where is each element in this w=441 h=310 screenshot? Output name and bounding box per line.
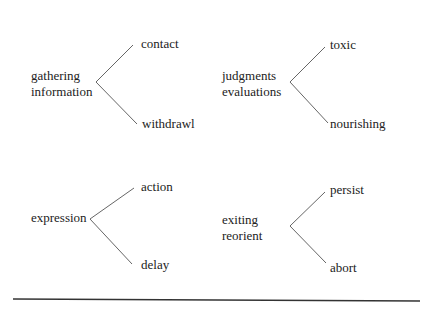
source-label: exiting reorient bbox=[222, 212, 262, 244]
branch-label-top: contact bbox=[141, 36, 179, 52]
bottom-rule bbox=[13, 299, 420, 301]
branch-line-gathering-contact bbox=[96, 45, 133, 82]
source-label: gathering information bbox=[31, 68, 92, 100]
branch-line-expression-action bbox=[90, 188, 134, 219]
source-label: expression bbox=[31, 210, 87, 226]
branch-line-judgments-toxic bbox=[290, 47, 325, 82]
branch-line-expression-delay bbox=[90, 219, 132, 264]
branch-label-bottom: withdrawl bbox=[142, 116, 195, 132]
branch-line-judgments-nourishing bbox=[290, 82, 328, 123]
source-label: judgments evaluations bbox=[222, 68, 281, 100]
branch-label-bottom: abort bbox=[330, 260, 357, 276]
branch-label-top: toxic bbox=[330, 37, 356, 53]
branch-line-exiting-persist bbox=[290, 192, 325, 226]
branch-label-top: action bbox=[141, 179, 173, 195]
diagram-canvas bbox=[0, 0, 441, 310]
branch-label-bottom: delay bbox=[141, 257, 169, 273]
branch-line-exiting-abort bbox=[290, 226, 326, 263]
branch-label-bottom: nourishing bbox=[330, 116, 386, 132]
branch-line-gathering-withdrawl bbox=[96, 82, 137, 124]
branch-label-top: persist bbox=[330, 182, 364, 198]
